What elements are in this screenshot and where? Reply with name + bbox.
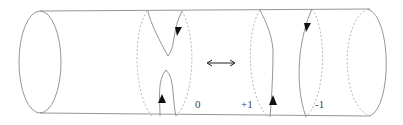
equivalence-arrow xyxy=(207,60,235,66)
config-plus-one-back xyxy=(250,10,268,117)
cylinder-diagram: 0 +1 -1 xyxy=(0,0,403,125)
config-zero: 0 xyxy=(137,11,201,116)
cylinder-left-end xyxy=(19,11,61,113)
cylinder-bottom-edge xyxy=(40,113,370,116)
arrow-up-icon xyxy=(269,95,277,105)
arrow-down-icon xyxy=(175,27,182,36)
label-plus-one: +1 xyxy=(241,98,253,110)
cylinder-right-end-front xyxy=(368,9,386,116)
config-zero-lower-curve xyxy=(160,70,176,116)
label-zero: 0 xyxy=(195,98,201,110)
config-minus-one: -1 xyxy=(299,9,324,117)
cylinder-right-end-back xyxy=(347,9,370,116)
cylinder-top-edge xyxy=(40,9,370,11)
cylinder xyxy=(19,9,386,116)
arrow-down-icon xyxy=(304,23,311,32)
label-minus-one: -1 xyxy=(315,98,324,110)
config-plus-one: +1 xyxy=(241,10,277,117)
